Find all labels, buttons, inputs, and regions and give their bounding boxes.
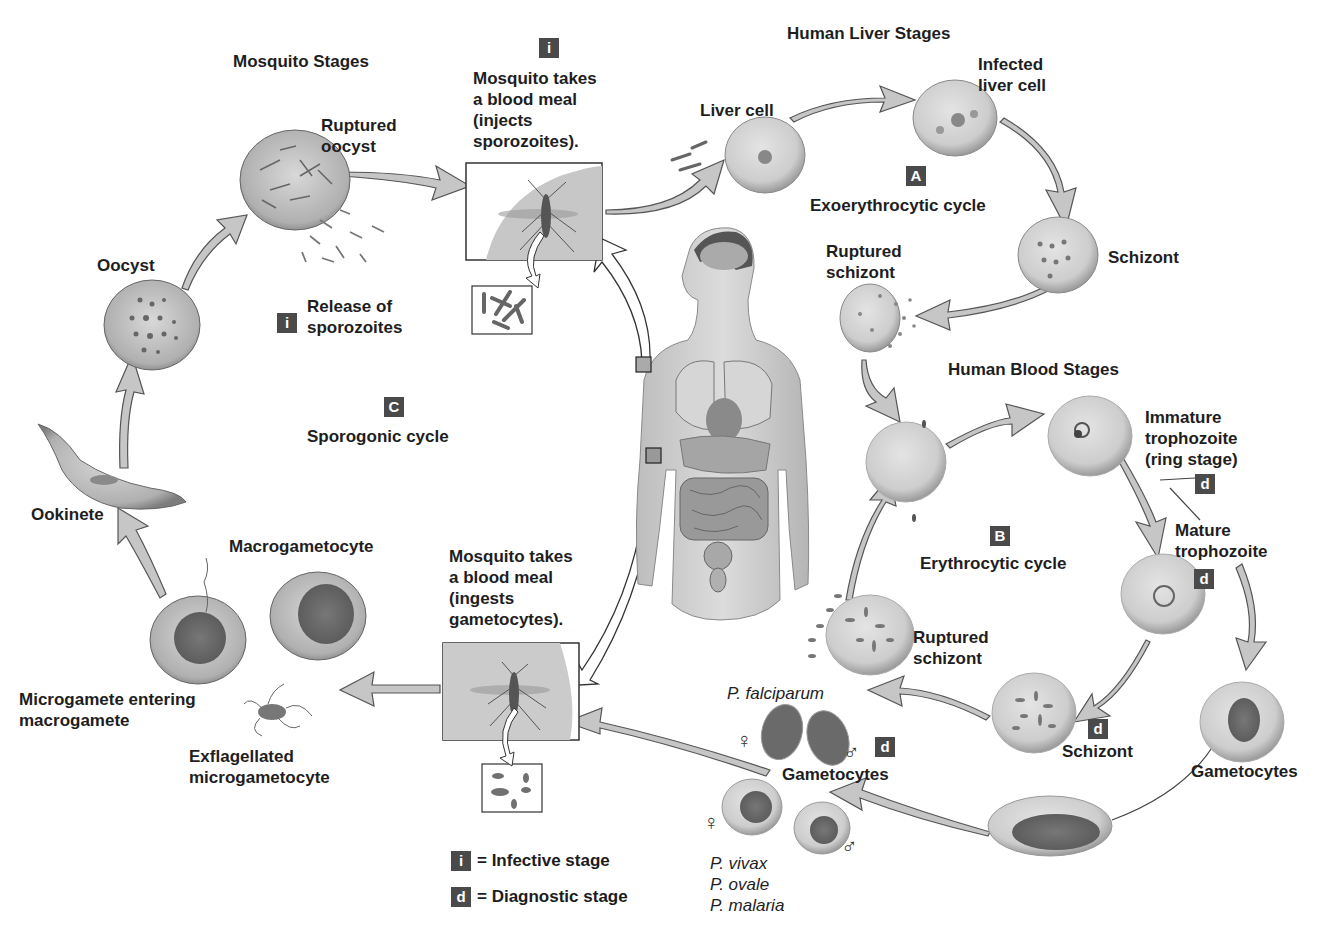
label-erythrocytic-cycle: Erythrocytic cycle	[920, 553, 1066, 574]
liver-ruptured-schizont	[840, 284, 916, 352]
legend-infective-text: = Infective stage	[477, 851, 610, 871]
cycle-b-badge: B	[990, 526, 1010, 546]
arrow-ruptured-to-rbc	[862, 360, 900, 422]
label-sporogonic-cycle: Sporogonic cycle	[307, 426, 449, 447]
human-body	[636, 228, 809, 620]
arrow-liver-to-infected	[790, 86, 915, 122]
label-macrogametocyte: Macrogametocyte	[229, 536, 374, 557]
label-gametocytes-right: Gametocytes	[1191, 761, 1298, 782]
label-ruptured-oocyst: Rupturedoocyst	[321, 115, 397, 157]
infective-badge: i	[451, 851, 471, 871]
macrogametocyte	[270, 572, 366, 660]
label-mature-trophozoite: Maturetrophozoite	[1175, 520, 1268, 562]
exflagellated-microgametocyte	[244, 684, 312, 736]
label-other-species: P. vivaxP. ovaleP. malaria	[710, 853, 784, 916]
ookinete	[38, 424, 186, 509]
arrow-ookinete-to-oocyst	[116, 355, 144, 468]
arrow-macro-to-ookinete	[118, 508, 166, 598]
legend-diagnostic-text: = Diagnostic stage	[477, 887, 628, 907]
arrow-bite-to-liver	[606, 160, 724, 214]
blood-ruptured-schizont	[808, 594, 914, 675]
label-gametocytes-center: Gametocytes	[782, 764, 889, 785]
cycle-a-badge: A	[906, 166, 926, 186]
cycle-c-badge: C	[384, 397, 404, 417]
label-microgamete-entering: Microgamete enteringmacrogamete	[19, 689, 196, 731]
label-liver-cell: Liver cell	[700, 100, 774, 121]
diagnostic-badge: d	[451, 887, 471, 907]
label-ruptured-schizont-liver: Rupturedschizont	[826, 241, 902, 283]
bite-box-inject	[466, 163, 602, 334]
label-ookinete: Ookinete	[31, 504, 104, 525]
label-release-sporozoites: Release ofsporozoites	[307, 296, 402, 338]
falciparum-gametocytes	[755, 700, 856, 771]
label-schizont-blood: Schizont	[1062, 741, 1133, 762]
diagnostic-badge: d	[875, 737, 895, 757]
ring-stage-cell	[1048, 396, 1132, 476]
legend-diagnostic: d = Diagnostic stage	[451, 887, 628, 907]
female-symbol: ♀	[736, 730, 753, 752]
label-schizont-liver: Schizont	[1108, 247, 1179, 268]
arrow-rbc-to-ring	[946, 404, 1044, 448]
male-symbol: ♂	[843, 742, 860, 764]
arrow-ring-to-mature	[1118, 456, 1166, 558]
label-bite-ingest: Mosquito takesa blood meal (ingestsgamet…	[449, 546, 573, 630]
macrogamete-fertilized	[150, 558, 246, 684]
oocyst	[104, 280, 200, 370]
section-blood-stages: Human Blood Stages	[948, 359, 1119, 380]
arrow-oocyst-to-ruptured	[182, 215, 247, 290]
vivax-gametocytes	[722, 779, 850, 854]
male-symbol: ♂	[841, 836, 858, 858]
liver-cell	[672, 117, 805, 193]
label-infected-liver-cell: Infectedliver cell	[978, 54, 1046, 96]
blood-gametocyte-cell	[1200, 682, 1284, 762]
arrow-mature-to-gameto	[1236, 564, 1266, 670]
mature-trophozoite-cell	[1121, 554, 1205, 634]
arrow-schizont-to-ruptured	[916, 286, 1050, 330]
arrow-bite2-to-macro	[340, 672, 440, 706]
liver-schizont	[1018, 217, 1098, 293]
label-ruptured-schizont-blood: Rupturedschizont	[913, 627, 989, 669]
diagnostic-badge: d	[1194, 569, 1214, 589]
arrow-gameto-to-center	[830, 778, 990, 836]
elongated-gametocyte	[988, 796, 1112, 856]
arrow-mature-to-schizont	[1074, 640, 1150, 722]
section-mosquito-stages: Mosquito Stages	[233, 51, 369, 72]
label-oocyst: Oocyst	[97, 255, 155, 276]
label-exflagellated: Exflagellatedmicrogametocyte	[189, 746, 330, 788]
arrow-schizont-to-ruptured-blood	[868, 676, 990, 720]
label-immature-trophozoite: Immaturetrophozoite(ring stage)	[1145, 407, 1238, 470]
bite-box-ingest	[443, 643, 579, 812]
label-bite-inject: Mosquito takesa blood meal (injectssporo…	[473, 68, 597, 152]
legend-infective: i = Infective stage	[451, 851, 610, 871]
section-liver-stages: Human Liver Stages	[787, 23, 950, 44]
infective-badge: i	[539, 38, 559, 58]
arrow-infected-to-schizont	[1000, 118, 1076, 228]
label-p-falciparum: P. falciparum	[727, 683, 824, 704]
diagnostic-badge: d	[1195, 474, 1215, 494]
label-exoerythrocytic-cycle: Exoerythrocytic cycle	[810, 195, 986, 216]
arrow-oocyst-to-bite	[340, 166, 470, 200]
life-cycle-graphics	[0, 0, 1335, 928]
female-symbol: ♀	[703, 812, 720, 834]
diagnostic-badge: d	[1088, 719, 1108, 739]
infective-badge: i	[277, 313, 297, 333]
